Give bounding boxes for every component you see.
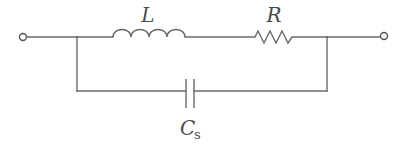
inductor-label: L	[140, 3, 154, 27]
capacitor-label-subscript: s	[194, 127, 201, 142]
resistor-symbol	[255, 31, 292, 43]
inductor-symbol	[113, 30, 185, 38]
resistor-label: R	[265, 3, 281, 27]
circuit-diagram: L R C s	[0, 0, 406, 154]
right-terminal	[381, 33, 388, 40]
left-terminal	[20, 34, 27, 41]
